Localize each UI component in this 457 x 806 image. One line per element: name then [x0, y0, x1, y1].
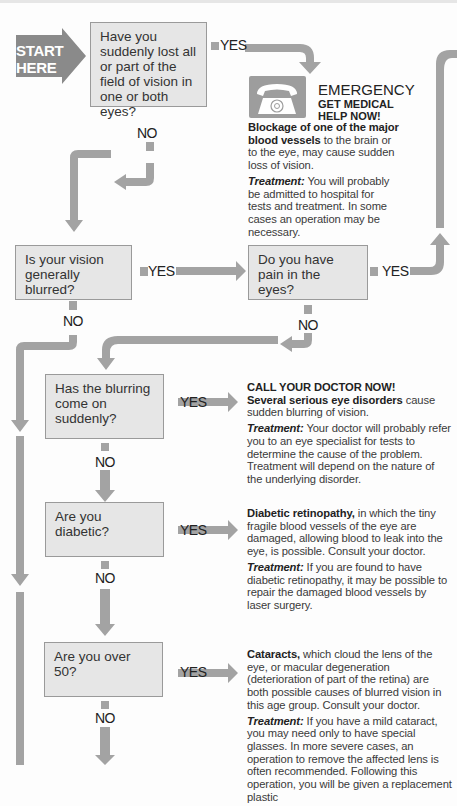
question-box-q4: Has the blurring come on suddenly? [45, 374, 164, 439]
yes-label: YES [148, 263, 175, 279]
question-box-q5: Are you diabetic? [45, 502, 164, 557]
outcome-diabetic-text: Diabetic retinopathy, in which the tiny … [247, 507, 452, 615]
outcome-cause: Several serious eye disorders [247, 394, 403, 406]
question-box-q2: Is your vision generally blurred? [15, 245, 132, 300]
emergency-text: Blockage of one of the major blood vesse… [248, 121, 400, 241]
no-label: NO [95, 570, 115, 586]
treatment-label: Treatment: [247, 715, 304, 727]
emergency-title: EMERGENCY [318, 82, 415, 98]
question-box-q6: Are you over 50? [44, 642, 163, 697]
yes-label: YES [180, 522, 207, 538]
yes-marker [211, 42, 219, 50]
question-box-q1: Have you suddenly lost all or part of th… [90, 22, 207, 107]
yes-label: YES [220, 37, 247, 53]
start-line-2: HERE [16, 59, 63, 76]
question-text: Is your vision generally blurred? [25, 252, 104, 297]
question-text: Are you over 50? [54, 649, 131, 679]
yes-label: YES [180, 664, 207, 680]
start-line-1: START [16, 42, 63, 59]
no-label: NO [95, 454, 115, 470]
question-box-q3: Do you have pain in the eyes? [248, 245, 368, 300]
outcome-heading: CALL YOUR DOCTOR NOW! [247, 381, 395, 393]
treatment-label: Treatment: [247, 422, 304, 434]
emergency-subtitle-1: GET MEDICAL [318, 98, 415, 110]
yes-label: YES [180, 394, 207, 410]
treatment-label: Treatment: [247, 561, 304, 573]
question-text: Are you diabetic? [55, 509, 109, 539]
question-text: Has the blurring come on suddenly? [55, 381, 150, 426]
no-label: NO [95, 710, 115, 726]
start-here-label: START HERE [16, 42, 63, 76]
yes-label: YES [382, 263, 409, 279]
no-label: NO [137, 125, 157, 141]
telephone-icon [249, 76, 306, 118]
outcome-blurring-text: CALL YOUR DOCTOR NOW!Several serious eye… [247, 381, 452, 489]
outcome-over50-text: Cataracts, which cloud the lens of the e… [247, 648, 452, 806]
treatment-label: Treatment: [248, 175, 305, 187]
no-label: NO [298, 317, 318, 333]
question-text: Do you have pain in the eyes? [258, 252, 334, 297]
outcome-treatment: If you have a mild cataract, you may nee… [247, 715, 452, 803]
no-label: NO [63, 313, 83, 329]
outcome-cause: Cataracts, [247, 648, 300, 660]
emergency-heading: EMERGENCY GET MEDICAL HELP NOW! [318, 82, 415, 122]
question-text: Have you suddenly lost all or part of th… [100, 29, 196, 119]
outcome-cause: Diabetic retinopathy, [247, 507, 355, 519]
